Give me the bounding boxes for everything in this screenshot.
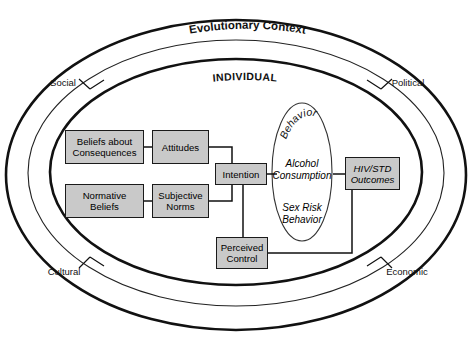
connector-attitudes-to-intention — [208, 147, 232, 164]
node-perceived-control[interactable]: Perceived Control — [216, 237, 268, 269]
node-line-1: Subjective — [158, 190, 202, 201]
node-line-1: Normative — [83, 190, 127, 201]
individual-label: INDIVIDUAL — [212, 70, 278, 84]
diagram-canvas: Evolutionary Context INDIVIDUAL Behavior… — [0, 0, 471, 340]
leader-line-social — [79, 79, 104, 89]
behavior-line-2: Consumption — [273, 170, 332, 181]
connector-subjective-to-intention — [208, 185, 232, 201]
node-label: Intention — [223, 169, 260, 180]
behavior-line-1: Alcohol — [286, 158, 319, 169]
node-hiv-std-outcomes[interactable]: HIV/STD Outcomes — [345, 157, 400, 190]
node-beliefs-about-consequences[interactable]: Beliefs about Consequences — [65, 130, 144, 164]
label-cultural: Cultural — [48, 266, 81, 277]
behavior-line-1: Sex Risk — [282, 202, 321, 213]
node-line-2: Norms — [166, 201, 194, 212]
leader-line-political — [367, 79, 392, 89]
label-social: Social — [50, 77, 76, 88]
behavior-line-2: Behavior — [282, 214, 321, 225]
node-line-2: Beliefs — [90, 201, 119, 212]
node-line-2: Consequences — [72, 147, 136, 158]
node-line-2: Control — [227, 253, 258, 264]
node-subjective-norms[interactable]: Subjective Norms — [152, 184, 209, 218]
node-line-2: Outcomes — [351, 174, 395, 185]
behavior-heading-label: Behavior — [277, 106, 319, 141]
label-political: Political — [392, 77, 425, 88]
evolutionary-context-label: Evolutionary Context — [188, 19, 307, 36]
node-normative-beliefs[interactable]: Normative Beliefs — [65, 184, 144, 218]
node-attitudes[interactable]: Attitudes — [152, 130, 209, 164]
label-economic: Economic — [386, 266, 428, 277]
node-line-1: HIV/STD — [354, 163, 392, 174]
node-line-1: Perceived — [221, 242, 264, 253]
behavior-item-sex-risk-behavior: Sex Risk Behavior — [266, 202, 338, 225]
node-line-1: Beliefs about — [77, 136, 132, 147]
node-intention[interactable]: Intention — [215, 163, 267, 185]
node-label: Attitudes — [162, 142, 199, 153]
behavior-item-alcohol-consumption: Alcohol Consumption — [262, 158, 342, 181]
